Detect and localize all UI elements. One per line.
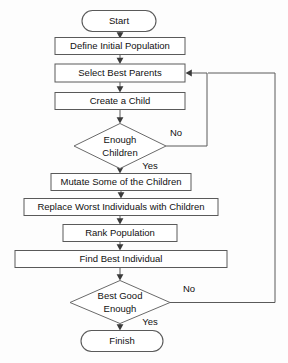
connector-good-yes [117,324,124,331]
node-start[interactable]: Start [82,11,156,32]
edge-label-good-no: No [183,283,195,294]
node-define-initial-population[interactable]: Define Initial Population [55,38,185,55]
edge-label-good-yes: Yes [142,316,158,327]
node-rank-population[interactable]: Rank Population [63,225,177,242]
connector-select-to-create [117,82,124,93]
node-enough-label-line1: Enough [104,134,137,145]
connector-define-to-select [117,55,124,65]
node-start-label: Start [109,15,129,26]
node-finish[interactable]: Finish [81,331,163,352]
node-good-label-line1: Best Good [98,290,143,301]
node-define-label: Define Initial Population [70,40,170,51]
connector-mutate-to-replace [118,191,125,199]
node-rank-label: Rank Population [85,227,155,238]
node-enough-label-line2: Children [102,147,137,158]
node-select-best-parents[interactable]: Select Best Parents [55,64,185,82]
node-good-label-line2: Enough [104,303,137,314]
node-select-label: Select Best Parents [78,67,162,78]
connector-create-to-enough [117,110,124,124]
flowchart-root: Start Define Initial Population Select B… [0,0,288,363]
flowchart-canvas: Start Define Initial Population Select B… [0,0,288,363]
connector-rank-to-find [117,242,124,251]
node-finish-label: Finish [109,335,134,346]
edge-label-enough-no: No [170,127,182,138]
connector-replace-to-rank [117,216,124,225]
node-find-label: Find Best Individual [80,253,163,264]
node-replace-label: Replace Worst Individuals with Children [37,201,204,212]
edge-label-enough-yes: Yes [142,160,158,171]
node-mutate-label: Mutate Some of the Children [61,176,182,187]
node-mutate-some-of-the-children[interactable]: Mutate Some of the Children [51,174,191,191]
node-find-best-individual[interactable]: Find Best Individual [15,251,227,268]
node-create-a-child[interactable]: Create a Child [55,93,185,110]
connector-find-to-good [117,268,124,281]
node-create-label: Create a Child [90,95,151,106]
node-replace-worst-individuals[interactable]: Replace Worst Individuals with Children [24,199,218,216]
